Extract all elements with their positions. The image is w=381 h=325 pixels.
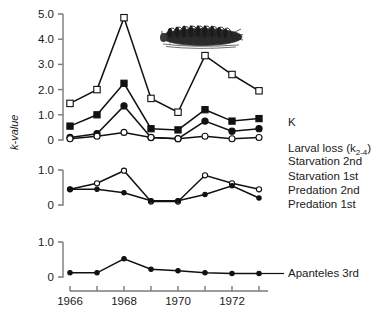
marker-pred1-1967 (95, 187, 99, 191)
marker-larval-1972 (229, 118, 235, 124)
marker-starv2-1968 (121, 103, 127, 109)
marker-starv2-1972 (229, 128, 235, 134)
marker-starv1-1973 (256, 135, 262, 141)
marker-larval-1970 (175, 127, 181, 133)
xtick-1972: 1972 (219, 295, 245, 307)
series-predation-1st (68, 184, 261, 203)
marker-pred1-1973 (257, 196, 261, 200)
caterpillar-illustration (160, 25, 243, 48)
marker-larval-1968 (121, 80, 127, 86)
marker-apan-1968 (122, 257, 126, 261)
marker-K-1973 (256, 88, 262, 94)
marker-pred2-1968 (121, 168, 126, 173)
top-ytick-1: 1.0 (38, 109, 54, 121)
marker-starv2-1973 (256, 126, 262, 132)
mid-ytick-1: 1.0 (38, 164, 54, 176)
marker-starv1-1967 (94, 133, 100, 139)
legend-label-apanteles-3rd: Apanteles 3rd (288, 267, 359, 279)
chart-svg: 5.0 4.0 3.0 2.0 1.0 0 k-value (0, 0, 381, 325)
marker-starv1-1968 (121, 129, 127, 135)
legend-larval-loss-main: Larval loss (k (288, 142, 356, 154)
middle-panel-y-axis (58, 170, 63, 205)
marker-larval-1973 (256, 116, 262, 122)
marker-apan-1972 (230, 271, 234, 275)
marker-apan-1970 (176, 269, 180, 273)
top-ytick-4: 4.0 (38, 33, 54, 45)
k-value-multipanel-chart: 5.0 4.0 3.0 2.0 1.0 0 k-value (0, 0, 381, 325)
marker-K-1969 (148, 95, 154, 101)
marker-K-1966 (67, 100, 73, 106)
marker-pred1-1972 (230, 184, 234, 188)
marker-pred2-1971 (202, 173, 207, 178)
marker-starv1-1970 (175, 136, 181, 142)
top-ytick-0: 0 (48, 134, 54, 146)
marker-starv1-1971 (202, 133, 208, 139)
marker-apan-1967 (95, 271, 99, 275)
xtick-1970: 1970 (165, 295, 191, 307)
marker-pred2-1973 (256, 187, 261, 192)
top-ytick-5: 5.0 (38, 8, 54, 20)
marker-larval-1966 (67, 123, 73, 129)
marker-apan-1971 (203, 271, 207, 275)
marker-pred1-1968 (122, 191, 126, 195)
marker-K-1972 (229, 71, 235, 77)
top-ytick-2: 2.0 (38, 84, 54, 96)
top-panel-y-axis (58, 14, 63, 140)
top-ytick-3: 3.0 (38, 58, 54, 70)
series-K (67, 15, 262, 116)
series-apanteles-3rd (68, 257, 261, 276)
marker-pred1-1969 (149, 199, 153, 203)
mid-ytick-0: 0 (48, 199, 54, 211)
marker-pred2-1967 (94, 181, 99, 186)
legend-label-starvation-2nd: Starvation 2nd (288, 155, 362, 167)
marker-starv1-1972 (229, 136, 235, 142)
marker-K-1968 (121, 15, 127, 21)
marker-pred1-1970 (176, 199, 180, 203)
marker-K-1970 (175, 109, 181, 115)
legend-label-k: K (288, 116, 296, 128)
marker-larval-1971 (202, 107, 208, 113)
marker-apan-1966 (68, 271, 72, 275)
x-axis (70, 286, 268, 291)
marker-apan-1969 (149, 267, 153, 271)
legend-label-predation-2nd: Predation 2nd (288, 184, 360, 196)
xtick-1966: 1966 (57, 295, 83, 307)
marker-starv1-1966 (67, 136, 73, 142)
bot-ytick-1: 1.0 (38, 236, 54, 248)
y-axis-label: k-value (8, 115, 20, 150)
legend-larval-loss-close: ) (367, 142, 371, 154)
legend-label-predation-1st: Predation 1st (288, 198, 357, 210)
marker-K-1967 (94, 86, 100, 92)
marker-starv2-1971 (202, 118, 208, 124)
legend-label-starvation-1st: Starvation 1st (288, 170, 359, 182)
marker-larval-1967 (94, 112, 100, 118)
xtick-1968: 1968 (111, 295, 137, 307)
marker-starv1-1969 (148, 135, 154, 141)
marker-pred1-1971 (203, 192, 207, 196)
marker-K-1971 (202, 52, 208, 58)
bottom-panel-y-axis (58, 242, 63, 277)
marker-pred1-1966 (68, 187, 72, 191)
bot-ytick-0: 0 (48, 271, 54, 283)
marker-larval-1969 (148, 126, 154, 132)
